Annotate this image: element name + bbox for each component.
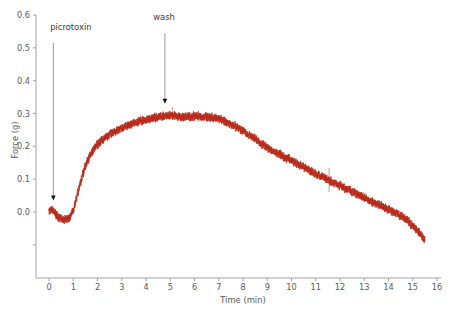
annotation-arrowhead-wash bbox=[163, 99, 168, 104]
x-tick-label: 6 bbox=[192, 282, 197, 292]
x-tick-label: 0 bbox=[46, 282, 51, 292]
axis-titles-group: Time (min) Force (g) bbox=[10, 121, 266, 305]
x-tick-label: 7 bbox=[216, 282, 221, 292]
x-tick-label: 13 bbox=[359, 282, 369, 292]
x-tick-label: 15 bbox=[408, 282, 418, 292]
data-trace-group bbox=[49, 107, 425, 243]
y-tick-label: 0.0 bbox=[17, 207, 30, 217]
chart-figure: 0.00.10.20.30.40.50.60123456789101112131… bbox=[0, 0, 459, 320]
x-tick-label: 16 bbox=[432, 282, 442, 292]
x-tick-label: 4 bbox=[143, 282, 148, 292]
x-tick-label: 5 bbox=[168, 282, 173, 292]
force-trace-path bbox=[49, 111, 425, 243]
annotations-group: picrotoxinwash bbox=[50, 12, 175, 201]
x-tick-label: 2 bbox=[95, 282, 100, 292]
x-tick-label: 12 bbox=[335, 282, 345, 292]
y-tick-label: 0.6 bbox=[17, 10, 30, 20]
force-vs-time-plot: 0.00.10.20.30.40.50.60123456789101112131… bbox=[0, 0, 459, 320]
y-tick-label: 0.1 bbox=[17, 174, 30, 184]
x-tick-label: 1 bbox=[71, 282, 76, 292]
tick-labels-group: 0.00.10.20.30.40.50.60123456789101112131… bbox=[17, 10, 442, 292]
x-tick-label: 10 bbox=[286, 282, 296, 292]
x-tick-label: 14 bbox=[383, 282, 393, 292]
annotation-label-picrotoxin: picrotoxin bbox=[50, 22, 91, 32]
x-tick-label: 3 bbox=[119, 282, 124, 292]
y-tick-label: 0.5 bbox=[17, 43, 30, 53]
x-tick-label: 8 bbox=[240, 282, 245, 292]
x-tick-label: 11 bbox=[311, 282, 321, 292]
annotation-label-wash: wash bbox=[153, 12, 175, 22]
y-tick-label: 0.4 bbox=[17, 76, 30, 86]
x-axis-title: Time (min) bbox=[219, 295, 266, 305]
y-axis-title: Force (g) bbox=[10, 121, 20, 158]
x-tick-label: 9 bbox=[265, 282, 270, 292]
annotation-arrowhead-picrotoxin bbox=[51, 196, 56, 201]
y-tick-label: 0.3 bbox=[17, 109, 30, 119]
